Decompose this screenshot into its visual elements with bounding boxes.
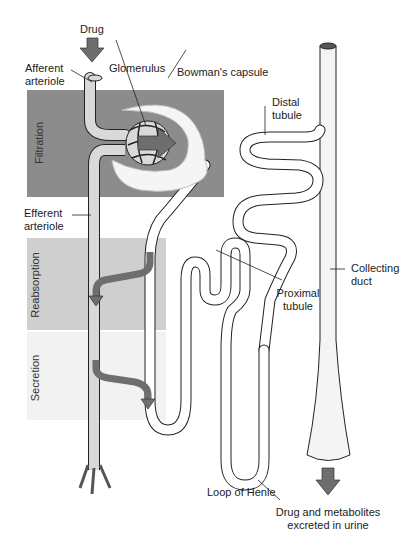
excreted-label-2: excreted in urine [272, 519, 384, 532]
drug-input-arrow [80, 38, 104, 62]
glomerulus-label: Glomerulus [109, 62, 165, 75]
vessel-branches [80, 465, 110, 494]
loop-of-henle-label: Loop of Henle [207, 486, 276, 499]
excretion-arrow [316, 468, 340, 495]
zone-secretion: Secretion [29, 343, 41, 413]
efferent-label-2: arteriole [24, 220, 64, 233]
collecting-label-1: Collecting [351, 262, 399, 275]
proximal-label-1: Proximal [268, 287, 328, 300]
zone-filtration: Filtration [33, 108, 45, 178]
distal-label-1: Distal [272, 96, 300, 109]
collecting-label-2: duct [351, 275, 372, 288]
zone-reabsorption: Reabsorption [29, 240, 41, 330]
drug-label: Drug [80, 23, 104, 36]
collecting-duct-opening [320, 43, 336, 49]
afferent-label-1: Afferent [25, 62, 63, 75]
distal-label-2: tubule [272, 109, 302, 122]
bowmans-capsule-label: Bowman's capsule [177, 66, 268, 79]
afferent-label-2: arteriole [25, 75, 65, 88]
efferent-label-1: Efferent [24, 207, 62, 220]
excreted-label-1: Drug and metabolites [272, 506, 384, 519]
collecting-duct [307, 46, 350, 461]
proximal-label-2: tubule [268, 300, 328, 313]
